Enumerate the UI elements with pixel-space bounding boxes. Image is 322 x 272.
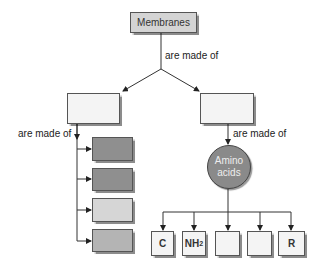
membranes-node: Membranes [130, 12, 197, 33]
left-component-4 [92, 229, 133, 252]
edge-label-right: are made of [233, 128, 286, 139]
left-component-3 [92, 198, 133, 222]
amino-component-r: R [278, 231, 305, 256]
amino-acids-line1: Amino [215, 155, 243, 167]
edge-label-left: are made of [18, 128, 71, 139]
amino-component-nh2: NH2 [182, 231, 206, 256]
right-blank-node [200, 93, 254, 124]
edge-label-top: are made of [165, 50, 218, 61]
amino-component-blank-2 [247, 231, 272, 256]
left-component-2 [92, 168, 133, 191]
amino-component-c: C [151, 231, 174, 256]
left-component-1 [92, 137, 133, 161]
amino-component-blank-1 [215, 231, 240, 256]
membranes-label: Membranes [137, 17, 190, 28]
amino-acids-node: Amino acids [207, 145, 251, 189]
left-blank-node [67, 93, 120, 124]
amino-acids-line2: acids [215, 167, 243, 179]
